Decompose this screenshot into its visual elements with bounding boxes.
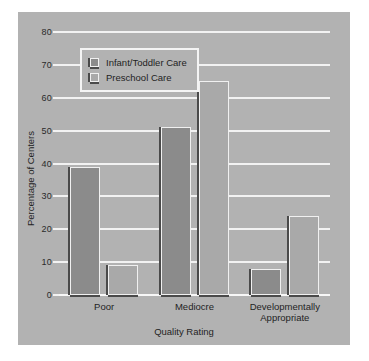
y-tick-mark [53, 294, 59, 296]
y-tick-label: 80 [42, 27, 52, 37]
y-tick-mark [53, 163, 59, 165]
bar-chart-figure: Percentage of Centers 01020304050607080 … [18, 12, 350, 345]
x-axis-title: Quality Rating [18, 326, 350, 337]
gridline [59, 163, 330, 165]
bar [70, 167, 100, 295]
y-tick-mark [53, 64, 59, 66]
y-axis-title-text: Percentage of Centers [26, 131, 37, 226]
x-tick-label: Mediocre [175, 301, 214, 312]
y-tick-mark [53, 228, 59, 230]
y-tick-label: 20 [42, 224, 52, 234]
y-tick-mark [53, 31, 59, 33]
bar [251, 269, 281, 295]
legend-label: Infant/Toddler Care [106, 57, 187, 68]
legend-item: Preschool Care [88, 70, 187, 85]
gridline [59, 130, 330, 132]
x-tick-label: Developmentally Appropriate [250, 301, 320, 323]
y-tick-label: 40 [42, 159, 52, 169]
gridline [59, 31, 330, 33]
y-tick-mark [53, 261, 59, 263]
bar [199, 81, 229, 295]
bar [108, 265, 138, 295]
y-axis-title: Percentage of Centers [24, 12, 38, 345]
y-tick-label: 10 [42, 257, 52, 267]
legend-item: Infant/Toddler Care [88, 55, 187, 70]
x-tick-label: Poor [94, 301, 114, 312]
bar [161, 127, 191, 295]
bar [289, 216, 319, 295]
y-tick-label: 30 [42, 191, 52, 201]
y-tick-label: 60 [42, 93, 52, 103]
y-tick-mark [53, 130, 59, 132]
y-tick-mark [53, 195, 59, 197]
legend: Infant/Toddler CarePreschool Care [80, 48, 199, 92]
legend-swatch-icon [90, 58, 99, 67]
legend-label: Preschool Care [106, 72, 171, 83]
y-tick-label: 50 [42, 126, 52, 136]
y-tick-label: 70 [42, 60, 52, 70]
legend-swatch-icon [90, 73, 99, 82]
y-tick-mark [53, 97, 59, 99]
y-tick-label: 0 [47, 290, 52, 300]
gridline [59, 97, 330, 99]
